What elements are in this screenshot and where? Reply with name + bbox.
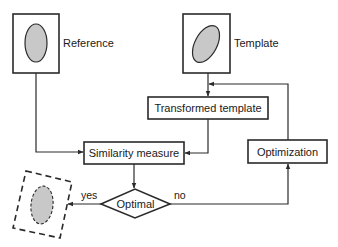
- edges: [36, 73, 288, 204]
- result-dashed-ellipse-icon: [29, 185, 55, 225]
- optimization-node: Optimization: [248, 140, 327, 163]
- reference-node: Reference: [13, 14, 114, 73]
- optimal-label: Optimal: [117, 198, 155, 210]
- transformed-template-node: Transformed template: [148, 97, 268, 119]
- result-node: [13, 171, 72, 238]
- optimization-label: Optimization: [257, 146, 318, 158]
- similarity-measure-label: Similarity measure: [89, 147, 179, 159]
- edge-optimal-to-optimization-no: [170, 164, 288, 204]
- transformed-template-label: Transformed template: [154, 102, 261, 114]
- flowchart-diagram: Reference Template Transformed template …: [0, 0, 338, 247]
- edge-label-no: no: [174, 189, 186, 201]
- reference-ellipse-icon: [25, 24, 47, 62]
- edge-label-yes: yes: [81, 189, 97, 201]
- edge-transformed-to-similarity: [185, 119, 208, 153]
- reference-label: Reference: [63, 37, 114, 49]
- template-node: Template: [183, 14, 279, 73]
- similarity-measure-node: Similarity measure: [84, 142, 184, 164]
- edge-reference-to-similarity: [36, 73, 83, 152]
- template-label: Template: [234, 37, 279, 49]
- optimal-decision-node: Optimal: [101, 189, 170, 218]
